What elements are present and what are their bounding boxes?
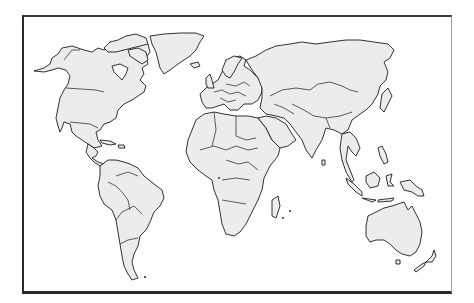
region-iceland[interactable] xyxy=(190,62,200,68)
region-borneo[interactable] xyxy=(366,172,380,188)
region-africa[interactable] xyxy=(186,112,280,236)
region-tasmania[interactable] xyxy=(396,260,400,264)
region-sumatra[interactable] xyxy=(346,178,362,196)
region-sri-lanka[interactable] xyxy=(322,160,325,165)
region-japan[interactable] xyxy=(380,88,392,112)
region-australia[interactable] xyxy=(366,202,422,256)
region-java[interactable] xyxy=(362,198,376,202)
region-indochina[interactable] xyxy=(340,132,360,182)
region-greenland[interactable] xyxy=(150,33,204,74)
region-new-zealand[interactable] xyxy=(414,262,426,272)
region-new-zealand-north[interactable] xyxy=(426,250,436,262)
region-madagascar[interactable] xyxy=(272,196,280,218)
world-map xyxy=(0,0,474,303)
region-cuba[interactable] xyxy=(100,140,116,145)
region-hispaniola[interactable] xyxy=(118,145,125,148)
region-philippines[interactable] xyxy=(378,146,388,164)
region-lesser-sunda[interactable] xyxy=(378,198,394,202)
region-sulawesi[interactable] xyxy=(386,174,394,186)
region-united-kingdom[interactable] xyxy=(206,74,214,88)
region-new-guinea[interactable] xyxy=(400,180,424,196)
region-south-america[interactable] xyxy=(98,160,164,280)
